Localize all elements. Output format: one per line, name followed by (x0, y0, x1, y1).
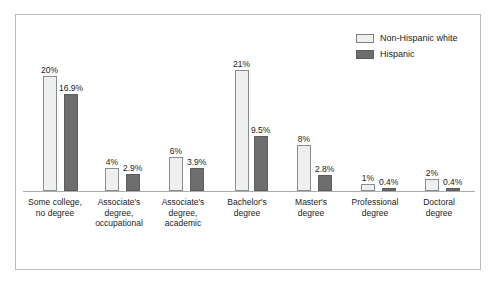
bar-rect[interactable] (361, 184, 375, 191)
bar-value-label: 2% (426, 168, 438, 178)
bar-bachelors-hispanic[interactable]: 9.5% (251, 125, 270, 191)
bar-rect[interactable] (254, 136, 268, 191)
legend-swatch-light (356, 34, 374, 43)
bar-rect[interactable] (64, 94, 78, 191)
bar-rect[interactable] (43, 76, 57, 191)
bar-associates-occupational-hispanic[interactable]: 2.9% (123, 163, 142, 191)
bar-professional-non-hispanic-white[interactable]: 1% (361, 173, 375, 191)
category-label-line3: academic (145, 218, 221, 229)
bar-rect[interactable] (318, 175, 332, 191)
legend-label: Hispanic (380, 50, 415, 59)
bar-value-label: 9.5% (251, 125, 270, 135)
bar-rect[interactable] (190, 168, 204, 191)
chart-legend: Non-Hispanic white Hispanic (356, 32, 458, 64)
bar-doctoral-hispanic[interactable]: 0.4% (443, 177, 462, 191)
category-label-line2: degree (401, 208, 477, 219)
bar-masters-hispanic[interactable]: 2.8% (315, 164, 334, 191)
bar-rect[interactable] (425, 179, 439, 191)
bar-some-college-non-hispanic-white[interactable]: 20% (41, 65, 58, 191)
bar-value-label: 16.9% (59, 83, 83, 93)
legend-label: Non-Hispanic white (380, 34, 458, 43)
bar-professional-hispanic[interactable]: 0.4% (379, 177, 398, 191)
bar-value-label: 3.9% (187, 157, 206, 167)
category-label-doctoral: Doctoral degree (401, 197, 477, 218)
bar-rect[interactable] (446, 188, 460, 191)
bar-value-label: 4% (106, 157, 118, 167)
bar-rect[interactable] (126, 174, 140, 191)
bar-rect[interactable] (235, 70, 249, 191)
bar-rect[interactable] (105, 168, 119, 191)
bar-associates-occupational-non-hispanic-white[interactable]: 4% (105, 157, 119, 191)
bar-value-label: 8% (298, 134, 310, 144)
bar-value-label: 0.4% (379, 177, 398, 187)
bar-value-label: 2.8% (315, 164, 334, 174)
bar-associates-academic-hispanic[interactable]: 3.9% (187, 157, 206, 191)
bar-value-label: 20% (41, 65, 58, 75)
legend-item-non-hispanic-white[interactable]: Non-Hispanic white (356, 32, 458, 45)
x-axis-line (23, 191, 475, 192)
bar-value-label: 1% (362, 173, 374, 183)
category-label-line1: Doctoral (401, 197, 477, 208)
bar-some-college-hispanic[interactable]: 16.9% (59, 83, 83, 191)
chart-panel: 20% 16.9% Some college, no degree 4% 2.9… (15, 14, 481, 270)
bar-rect[interactable] (169, 157, 183, 191)
legend-swatch-dark (356, 50, 374, 59)
bar-value-label: 0.4% (443, 177, 462, 187)
bar-rect[interactable] (297, 145, 311, 191)
bar-bachelors-non-hispanic-white[interactable]: 21% (233, 59, 250, 191)
bar-value-label: 21% (233, 59, 250, 69)
legend-item-hispanic[interactable]: Hispanic (356, 48, 458, 61)
bar-associates-academic-non-hispanic-white[interactable]: 6% (169, 146, 183, 191)
bar-masters-non-hispanic-white[interactable]: 8% (297, 134, 311, 191)
bar-value-label: 2.9% (123, 163, 142, 173)
bar-value-label: 6% (170, 146, 182, 156)
bar-doctoral-non-hispanic-white[interactable]: 2% (425, 168, 439, 191)
bar-rect[interactable] (382, 188, 396, 191)
